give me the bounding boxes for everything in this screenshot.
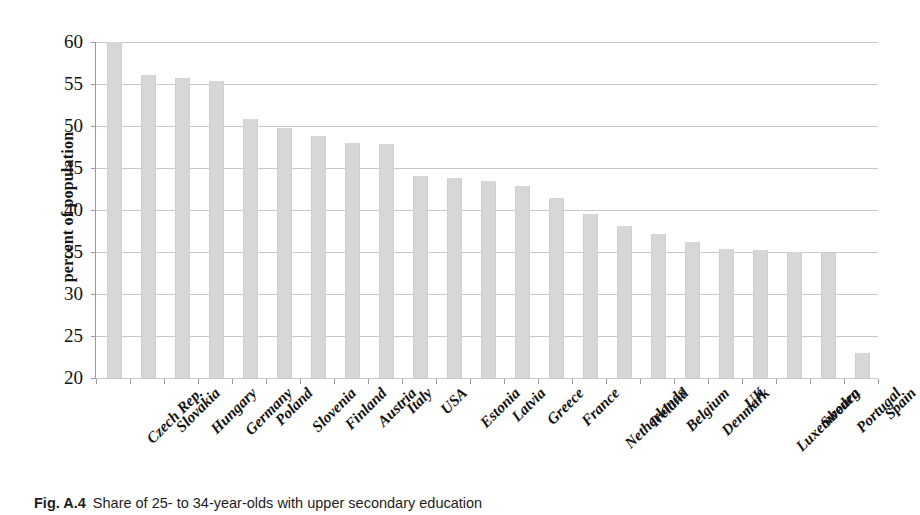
- bar: [209, 81, 224, 378]
- x-tick-mark: [266, 379, 267, 384]
- bar: [141, 75, 156, 378]
- x-tick-mark: [130, 379, 131, 384]
- bar: [345, 143, 360, 378]
- plot-area: [96, 42, 878, 378]
- x-tick-mark: [232, 379, 233, 384]
- x-tick-mark: [572, 379, 573, 384]
- y-tick-label-25: 25: [43, 326, 83, 345]
- x-tick-mark: [708, 379, 709, 384]
- bar: [107, 42, 122, 378]
- y-tick-label-35: 35: [43, 242, 83, 261]
- bar: [685, 242, 700, 378]
- x-tick-mark: [810, 379, 811, 384]
- x-tick-mark: [776, 379, 777, 384]
- x-axis-label: USA: [437, 384, 471, 418]
- y-tick-label-45: 45: [43, 158, 83, 177]
- bar: [481, 181, 496, 378]
- y-tick-label-30: 30: [43, 284, 83, 303]
- y-tick-mark-30: [91, 294, 96, 295]
- bar: [175, 78, 190, 378]
- bar: [617, 226, 632, 378]
- bar: [447, 178, 462, 378]
- gridline-60: [96, 42, 878, 43]
- x-tick-mark: [674, 379, 675, 384]
- bar: [753, 250, 768, 378]
- x-tick-mark: [606, 379, 607, 384]
- y-tick-mark-50: [91, 126, 96, 127]
- x-tick-mark: [640, 379, 641, 384]
- y-tick-mark-45: [91, 168, 96, 169]
- bar: [651, 234, 666, 378]
- x-tick-mark: [96, 379, 97, 384]
- x-tick-mark: [436, 379, 437, 384]
- x-tick-mark: [164, 379, 165, 384]
- x-tick-mark: [844, 379, 845, 384]
- bar: [379, 144, 394, 378]
- x-axis-label: France: [578, 384, 624, 430]
- x-axis-label: Greece: [543, 384, 587, 428]
- x-tick-mark: [368, 379, 369, 384]
- bar: [515, 186, 530, 378]
- bar: [549, 198, 564, 378]
- x-tick-mark: [878, 379, 879, 384]
- y-tick-mark-40: [91, 210, 96, 211]
- x-tick-mark: [470, 379, 471, 384]
- y-tick-mark-60: [91, 42, 96, 43]
- bar: [243, 119, 258, 378]
- x-tick-mark: [198, 379, 199, 384]
- figure-caption-text: Share of 25- to 34-year-olds with upper …: [93, 495, 482, 511]
- bar: [821, 253, 836, 378]
- x-tick-mark: [402, 379, 403, 384]
- y-tick-mark-25: [91, 336, 96, 337]
- bar: [855, 353, 870, 378]
- y-tick-label-55: 55: [43, 74, 83, 93]
- x-tick-mark: [742, 379, 743, 384]
- x-tick-mark: [538, 379, 539, 384]
- y-tick-label-20: 20: [43, 368, 83, 387]
- x-tick-mark: [334, 379, 335, 384]
- y-tick-label-40: 40: [43, 200, 83, 219]
- figure-number: Fig. A.4: [34, 495, 86, 511]
- y-tick-mark-35: [91, 252, 96, 253]
- bar: [787, 252, 802, 378]
- y-tick-label-60: 60: [43, 32, 83, 51]
- bar: [719, 249, 734, 378]
- x-tick-mark: [504, 379, 505, 384]
- bar: [413, 176, 428, 378]
- figure-caption: Fig. A.4Share of 25- to 34-year-olds wit…: [34, 495, 894, 511]
- y-tick-mark-55: [91, 84, 96, 85]
- y-tick-label-50: 50: [43, 116, 83, 135]
- gridline-20: [96, 378, 878, 379]
- bar: [277, 128, 292, 378]
- bar: [311, 136, 326, 378]
- bar: [583, 214, 598, 378]
- x-tick-mark: [300, 379, 301, 384]
